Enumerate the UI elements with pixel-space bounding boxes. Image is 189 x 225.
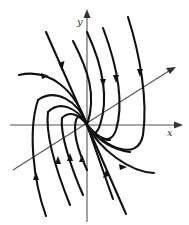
trajectory-arrow-icon <box>100 79 106 87</box>
phase-portrait-svg <box>0 0 189 225</box>
trajectory-ll-3 <box>62 118 83 195</box>
y-axis-label: y <box>77 17 83 27</box>
trajectory-arrow-icon <box>55 156 61 164</box>
eigenvector-line <box>13 69 172 170</box>
trajectory-arrow-icon <box>79 155 85 162</box>
phase-portrait-diagram: y x <box>0 0 189 225</box>
coordinate-axes <box>10 9 183 222</box>
x-axis-arrow-icon <box>174 122 183 129</box>
lower-left-trajectories <box>33 100 87 216</box>
trajectory-ll-1 <box>33 100 46 216</box>
eigenvector-arrow-icon <box>166 67 176 74</box>
trajectory-arrow-icon <box>33 172 39 180</box>
y-axis-arrow-icon <box>84 9 91 18</box>
x-axis-label: x <box>167 128 173 138</box>
upper-right-trajectories <box>73 17 145 150</box>
